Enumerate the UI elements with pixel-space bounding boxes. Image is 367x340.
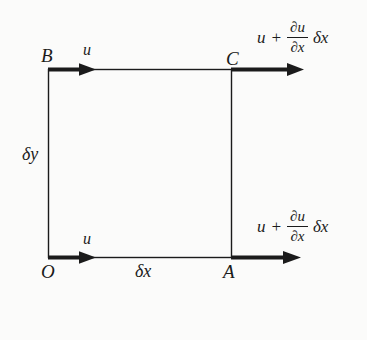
flux-arrow-top-icon bbox=[231, 63, 304, 76]
u-arrow-top-icon bbox=[48, 63, 96, 76]
formula-lhs: u bbox=[257, 218, 266, 235]
flux-arrow-bottom-icon bbox=[231, 251, 301, 264]
dimension-label-dx: δx bbox=[135, 262, 151, 280]
corner-label-O: O bbox=[41, 262, 55, 281]
fluid-element-square bbox=[49, 70, 232, 258]
corner-label-B: B bbox=[41, 46, 53, 65]
u-arrow-bottom-icon bbox=[48, 251, 96, 264]
flux-formula-bottom: u + ∂u ∂x δx bbox=[257, 208, 328, 244]
fluid-element-diagram: B C O A u u δy δx u + ∂u ∂x δx u + ∂u ∂x… bbox=[0, 0, 367, 340]
velocity-label-u-top: u bbox=[83, 42, 91, 58]
velocity-label-u-bottom: u bbox=[83, 231, 91, 247]
formula-operator: + bbox=[271, 218, 282, 235]
dimension-label-dy: δy bbox=[22, 145, 38, 163]
flux-formula-top: u + ∂u ∂x δx bbox=[257, 19, 328, 55]
formula-operator: + bbox=[271, 29, 282, 46]
formula-lhs: u bbox=[257, 29, 266, 46]
formula-rhs: δx bbox=[313, 218, 328, 235]
corner-label-C: C bbox=[226, 49, 239, 68]
formula-fraction: ∂u ∂x bbox=[287, 19, 308, 55]
corner-label-A: A bbox=[223, 262, 235, 281]
formula-fraction: ∂u ∂x bbox=[287, 208, 308, 244]
formula-rhs: δx bbox=[313, 29, 328, 46]
